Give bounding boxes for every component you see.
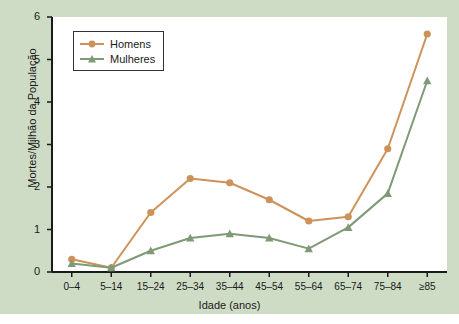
data-point-marker [305,217,312,224]
x-tick-label: ≥85 [404,281,450,292]
data-point-marker [423,77,431,85]
data-point-marker [424,30,431,37]
legend-label-mulheres: Mulheres [110,53,155,65]
data-point-marker [384,145,391,152]
legend-swatch-triangle-icon [79,52,105,66]
legend-item-mulheres: Mulheres [79,51,155,66]
chart-legend: Homens Mulheres [73,31,164,71]
data-point-marker [147,209,154,216]
chart-figure: 0123456 0–45–1415–2425–3435–4445–5455–64… [0,0,459,324]
chart-canvas [0,0,459,324]
legend-swatch-circle-icon [79,37,105,51]
x-axis-title: Idade (anos) [0,299,459,311]
y-tick-label: 0 [20,266,40,277]
data-point-marker [384,189,392,197]
data-point-marker [266,196,273,203]
data-point-marker [226,179,233,186]
legend-item-homens: Homens [79,36,155,51]
data-point-marker [187,175,194,182]
figure-bottom-strip [0,314,459,324]
legend-label-homens: Homens [110,38,151,50]
y-tick-label: 1 [20,224,40,235]
y-axis-title: Mortes/Milhão da População [26,18,38,218]
data-point-marker [345,213,352,220]
